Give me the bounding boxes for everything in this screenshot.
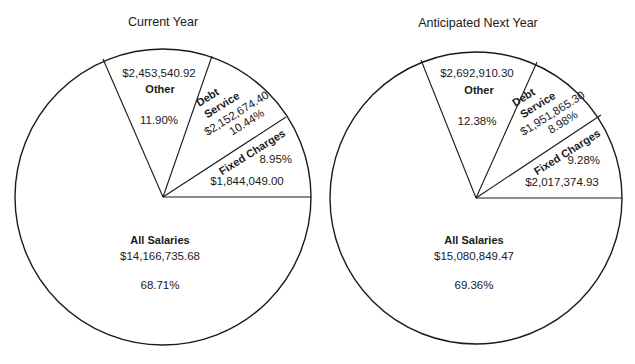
chart-title-current-year: Current Year <box>128 15 198 29</box>
chart-title-next-year: Anticipated Next Year <box>418 16 538 30</box>
other-amount: $2,453,540.92 <box>122 67 196 79</box>
pie-current-year: Current Year $2,453,540.92 Other 11.90% … <box>15 15 311 345</box>
other-amount: $2,692,910.30 <box>440 67 514 79</box>
salaries-amount: $14,166,735.68 <box>120 250 200 262</box>
fixed-charges-amount: $1,844,049.00 <box>210 175 284 187</box>
fixed-charges-percent: 8.95% <box>259 153 292 165</box>
other-label: Other <box>464 84 494 96</box>
other-percent: 11.90% <box>140 114 178 126</box>
salaries-percent: 69.36% <box>454 279 493 291</box>
other-label: Other <box>145 83 175 95</box>
pie-charts: Current Year $2,453,540.92 Other 11.90% … <box>0 0 635 364</box>
fixed-charges-percent: 9.28% <box>567 154 600 166</box>
salaries-amount: $15,080,849.47 <box>434 250 514 262</box>
fixed-charges-amount: $2,017,374.93 <box>525 176 599 188</box>
pie-anticipated-next-year: Anticipated Next Year $2,692,910.30 Othe… <box>330 16 622 344</box>
salaries-label: All Salaries <box>444 234 503 246</box>
salaries-percent: 68.71% <box>140 279 179 291</box>
salaries-label: All Salaries <box>130 234 189 246</box>
other-percent: 12.38% <box>457 115 496 127</box>
